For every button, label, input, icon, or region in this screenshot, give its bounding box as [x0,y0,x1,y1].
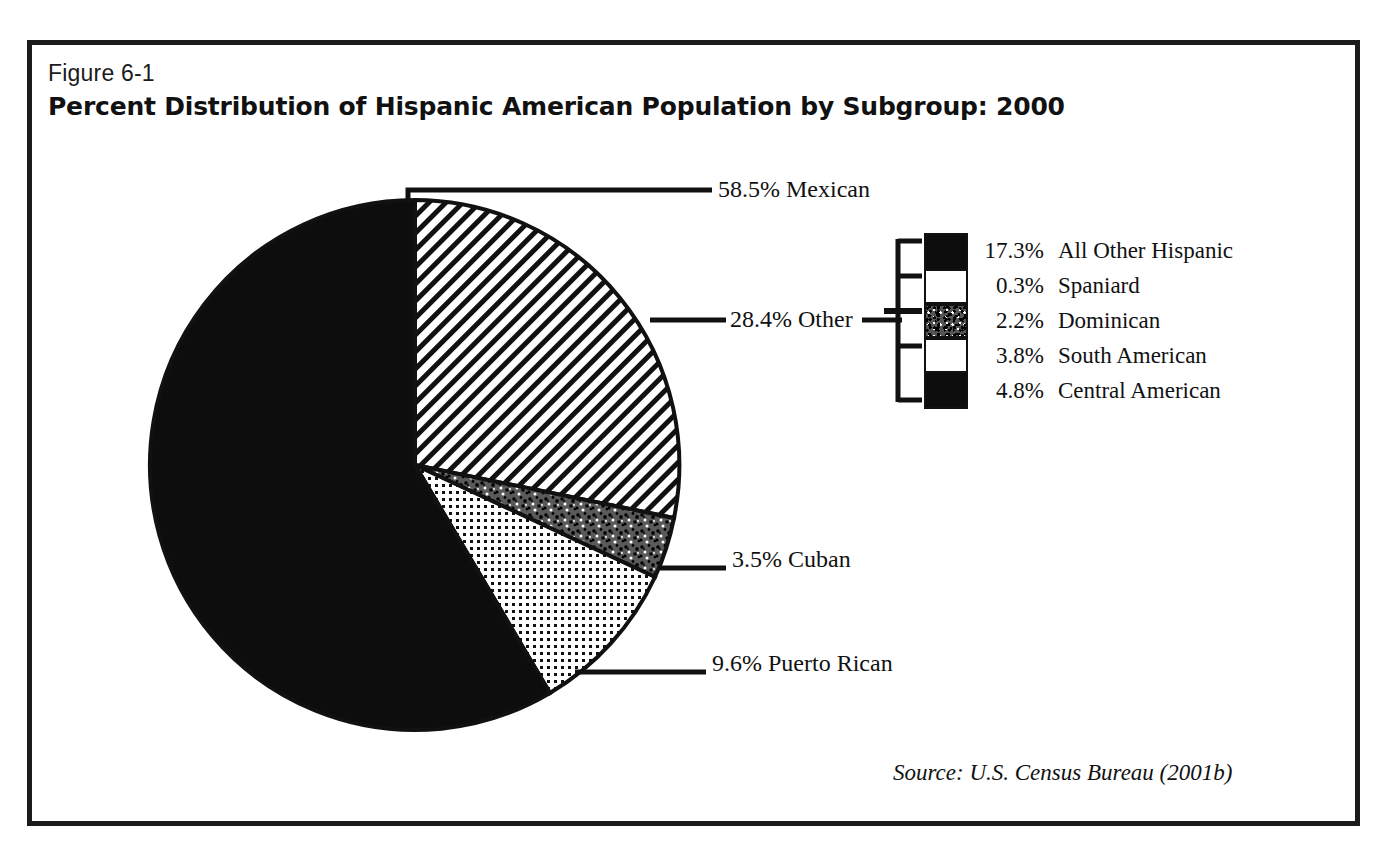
leader-line-mexican [408,190,712,200]
legend-swatch-dominican [926,304,966,338]
callout-label-puerto-rican: 9.6% Puerto Rican [712,650,893,677]
legend: 17.3% All Other Hispanic 0.3% Spaniard 2… [880,230,1240,415]
legend-percent: 3.8% [976,343,1044,369]
pie-chart [0,0,1386,860]
callout-label-other: 28.4% Other [730,306,853,333]
legend-swatch-south-american [926,338,966,372]
legend-swatch-central-american [926,373,966,407]
legend-label: Dominican [1058,308,1160,334]
legend-swatch-all-other-hispanic [926,235,966,269]
legend-label: Spaniard [1058,273,1140,299]
legend-percent: 0.3% [976,273,1044,299]
legend-item-all-other-hispanic: 17.3% All Other Hispanic [976,233,1233,268]
legend-item-central-american: 4.8% Central American [976,374,1221,409]
legend-percent: 4.8% [976,378,1044,404]
legend-swatch-spaniard [926,269,966,303]
pie-slice-other [415,200,679,518]
legend-percent: 2.2% [976,308,1044,334]
legend-item-dominican: 2.2% Dominican [976,303,1160,338]
legend-item-south-american: 3.8% South American [976,339,1207,374]
source-note: Source: U.S. Census Bureau (2001b) [893,760,1232,786]
legend-swatch-column [924,233,968,409]
callout-label-mexican: 58.5% Mexican [718,176,870,203]
legend-label: All Other Hispanic [1058,238,1233,264]
legend-label: South American [1058,343,1207,369]
legend-label: Central American [1058,378,1221,404]
callout-label-cuban: 3.5% Cuban [732,546,851,573]
legend-item-spaniard: 0.3% Spaniard [976,268,1140,303]
legend-percent: 17.3% [976,238,1044,264]
